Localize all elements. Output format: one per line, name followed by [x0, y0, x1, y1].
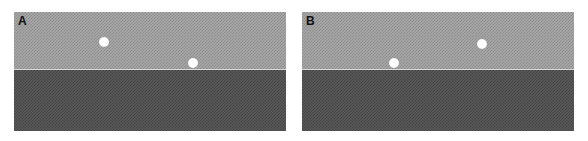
light-dot — [188, 58, 198, 68]
upper-region — [14, 12, 286, 69]
lower-region — [302, 70, 574, 131]
panel-label: B — [306, 15, 315, 27]
light-dot — [99, 37, 109, 47]
light-dot — [389, 58, 399, 68]
panel-label: A — [18, 15, 27, 27]
light-dot — [477, 39, 487, 49]
panel-a: A — [14, 12, 286, 131]
lower-region — [14, 70, 286, 131]
panel-b: B — [302, 12, 574, 131]
upper-region — [302, 12, 574, 69]
